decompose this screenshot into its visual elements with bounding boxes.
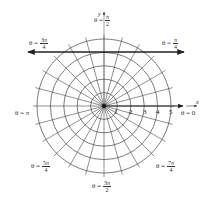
polar-ray bbox=[35, 106, 104, 124]
fraction-num: 5π bbox=[42, 160, 50, 167]
fraction-num: π bbox=[173, 37, 178, 44]
fraction-den: 4 bbox=[174, 44, 177, 50]
fraction-num: π bbox=[105, 14, 110, 21]
angle-label-3pi-over-4: θ = 3π4 bbox=[29, 37, 48, 50]
polar-ray bbox=[104, 70, 166, 106]
angle-label-5pi-over-4: θ = 5π4 bbox=[31, 160, 50, 173]
fraction-den: 4 bbox=[45, 167, 48, 173]
fraction: π2 bbox=[105, 14, 110, 27]
polar-ray bbox=[68, 44, 104, 106]
angle-label-pi: θ = π bbox=[15, 110, 29, 117]
polar-ray bbox=[68, 106, 104, 168]
polar-grid-diagram bbox=[0, 0, 207, 208]
polar-ray bbox=[104, 106, 122, 175]
angle-prefix: θ = bbox=[31, 163, 40, 170]
fraction-num: 7π bbox=[167, 160, 175, 167]
polar-ray bbox=[35, 88, 104, 106]
angle-label-zero: θ = 0 bbox=[181, 110, 195, 117]
polar-ray bbox=[104, 88, 173, 106]
angle-prefix: θ = bbox=[94, 17, 103, 24]
radius-tick-5: 5 bbox=[169, 109, 173, 116]
fraction: 7π4 bbox=[167, 160, 175, 173]
fraction: 3π2 bbox=[103, 180, 111, 193]
fraction-den: 4 bbox=[170, 167, 173, 173]
angle-prefix: θ = bbox=[156, 163, 165, 170]
polar-ray bbox=[104, 56, 154, 106]
angle-label-pi-over-2: θ = π2 bbox=[94, 14, 110, 27]
fraction-num: 3π bbox=[40, 37, 48, 44]
polar-ray bbox=[104, 44, 140, 106]
angle-label-7pi-over-4: θ = 7π4 bbox=[156, 160, 175, 173]
fraction: 3π4 bbox=[40, 37, 48, 50]
radius-tick-2: 2 bbox=[129, 109, 133, 116]
x-axis-label: x bbox=[196, 99, 199, 105]
angle-prefix: θ = bbox=[92, 183, 101, 190]
fraction-den: 2 bbox=[106, 21, 109, 27]
angle-label-3pi-over-2: θ = 3π2 bbox=[92, 180, 111, 193]
polar-ray bbox=[42, 70, 104, 106]
fraction-den: 4 bbox=[43, 44, 46, 50]
angle-prefix: θ = π bbox=[15, 110, 29, 117]
angle-label-pi-over-4: θ = π4 bbox=[162, 37, 178, 50]
polar-ray bbox=[104, 106, 140, 168]
angle-prefix: θ = bbox=[162, 40, 171, 47]
radius-tick-3: 3 bbox=[143, 109, 147, 116]
polar-ray bbox=[104, 37, 122, 106]
polar-ray bbox=[86, 106, 104, 175]
fraction: π4 bbox=[173, 37, 178, 50]
origin-dot bbox=[102, 104, 106, 108]
radius-tick-4: 4 bbox=[156, 109, 160, 116]
fraction: 5π4 bbox=[42, 160, 50, 173]
polar-ray bbox=[42, 106, 104, 142]
angle-prefix: θ = 0 bbox=[181, 110, 195, 117]
polar-ray bbox=[54, 56, 104, 106]
angle-prefix: θ = bbox=[29, 40, 38, 47]
fraction-num: 3π bbox=[103, 180, 111, 187]
fraction-den: 2 bbox=[106, 187, 109, 193]
radius-tick-1: 1 bbox=[114, 109, 118, 116]
polar-ray bbox=[54, 106, 104, 156]
polar-ray bbox=[86, 37, 104, 106]
